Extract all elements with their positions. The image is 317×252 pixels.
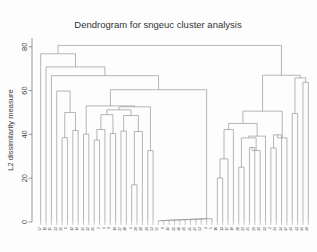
leaf-label: 19 [113, 227, 117, 231]
leaf-label: 22 [241, 227, 245, 231]
leaf-label: 36 [59, 227, 63, 231]
leaf-label: 29 [252, 227, 256, 231]
leaf-label: 43 [295, 227, 299, 231]
leaf-label: 52 [150, 227, 154, 231]
leaf-label: 10 [214, 227, 218, 231]
leaf-label: 42 [289, 227, 293, 231]
leaf-label: 6 [129, 227, 133, 229]
y-axis-label: L2 dissimilarity measure [6, 89, 15, 170]
leaf-label: 37 [284, 227, 288, 231]
leaf-label: 48 [305, 227, 309, 231]
leaf-label: 39 [145, 227, 149, 231]
chart-title: Dendrogram for sngeuc cluster analysis [74, 19, 242, 30]
leaf-label: 17 [225, 227, 229, 231]
leaf-label: 41 [182, 227, 186, 231]
leaf-label: 55 [155, 227, 159, 231]
leaf-label: 18 [230, 227, 234, 231]
leaf-label: 57 [38, 227, 42, 231]
leaf-label: 20 [236, 227, 240, 231]
leaf-label: 4 [102, 227, 106, 229]
leaf-label: 2 [268, 227, 272, 229]
dendrogram-chart: Dendrogram for sngeuc cluster analysis L… [0, 0, 317, 252]
leaf-label: 30 [123, 227, 127, 231]
leaf-label: 23 [54, 227, 58, 231]
leaf-label: 47 [193, 227, 197, 231]
y-tick-label: 80 [20, 43, 29, 51]
leaf-label: 12 [70, 227, 74, 231]
leaf-label: 38 [139, 227, 143, 231]
leaf-label: 40 [177, 227, 181, 231]
leaf-label: 15 [48, 227, 52, 231]
chart-background [0, 0, 317, 252]
y-tick-label: 0 [20, 220, 29, 224]
leaf-label: 33 [263, 227, 267, 231]
leaf-label: 8 [161, 227, 165, 229]
dendrogram-plot-container: Dendrogram for sngeuc cluster analysis L… [0, 0, 317, 252]
leaf-label: 45 [188, 227, 192, 231]
leaf-label: 26 [81, 227, 85, 231]
y-tick-label: 20 [20, 174, 29, 182]
leaf-label: 24 [273, 227, 277, 231]
leaf-label: 16 [166, 227, 170, 231]
leaf-label: 5 [209, 227, 213, 229]
leaf-label: 9 [107, 227, 111, 229]
leaf-label: 31 [257, 227, 261, 231]
y-tick-label: 60 [20, 86, 29, 94]
leaf-label: 53 [198, 227, 202, 231]
leaf-label: 46 [300, 227, 304, 231]
leaf-label: 27 [118, 227, 122, 231]
leaf-label: 7 [97, 227, 101, 229]
leaf-label: 11 [43, 227, 47, 231]
y-tick-label: 40 [20, 130, 29, 138]
leaf-label: 28 [134, 227, 138, 231]
leaf-label: 3 [204, 227, 208, 229]
leaf-label: 14 [75, 227, 79, 231]
leaf-label: 34 [279, 227, 283, 231]
leaf-label: 25 [246, 227, 250, 231]
leaf-label: 32 [86, 227, 90, 231]
leaf-label: 13 [220, 227, 224, 231]
leaf-label: 35 [91, 227, 95, 231]
leaf-label: 21 [172, 227, 176, 231]
leaf-label: 1 [64, 227, 68, 229]
